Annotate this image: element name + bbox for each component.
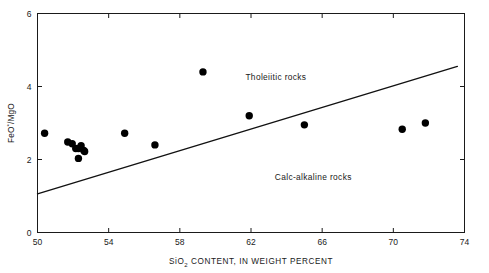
x-tick-label: 58 xyxy=(175,237,185,247)
data-point-group xyxy=(41,68,429,162)
x-tick-label: 62 xyxy=(246,237,256,247)
svg-text:FeO*/MgO: FeO*/MgO xyxy=(6,103,16,143)
data-point xyxy=(151,141,158,148)
plot-canvas: 50545862667074 0246 Tholeiitic rocks Cal… xyxy=(0,0,489,273)
calc-alkaline-field-label: Calc-alkaline rocks xyxy=(275,172,352,182)
data-point xyxy=(422,119,429,126)
y-axis-title: FeO*/MgO xyxy=(6,103,16,143)
tholeiitic-calc-alkaline-divider xyxy=(38,66,458,193)
data-point xyxy=(246,112,253,119)
x-tick-label: 54 xyxy=(104,237,114,247)
y-axis-title-part2: /MgO xyxy=(7,103,16,124)
y-tick-label: 6 xyxy=(27,9,32,19)
y-tick-label: 0 xyxy=(27,228,32,238)
data-point xyxy=(75,155,82,162)
y-tick-label: 2 xyxy=(27,155,32,165)
data-point xyxy=(199,68,206,75)
data-point xyxy=(41,130,48,137)
figure-scatter-plot: 50545862667074 0246 Tholeiitic rocks Cal… xyxy=(0,0,489,273)
x-axis-title-rest: CONTENT, IN WEIGHT PERCENT xyxy=(191,257,333,266)
y-axis-title-part1: FeO xyxy=(7,126,16,143)
tholeiitic-field-label: Tholeiitic rocks xyxy=(245,72,306,82)
x-tick-label: 66 xyxy=(317,237,327,247)
plot-frame xyxy=(38,14,465,233)
x-tick-label: 50 xyxy=(33,237,43,247)
data-point xyxy=(81,148,88,155)
x-axis-title-main: SiO xyxy=(169,257,184,266)
x-tick-label: 74 xyxy=(460,237,470,247)
y-axis-ticks: 0246 xyxy=(27,9,465,238)
data-point xyxy=(301,121,308,128)
data-point xyxy=(121,130,128,137)
x-axis-title: SiO2 CONTENT, IN WEIGHT PERCENT xyxy=(169,257,333,268)
data-point xyxy=(399,126,406,133)
x-tick-label: 70 xyxy=(389,237,399,247)
y-tick-label: 4 xyxy=(27,82,32,92)
